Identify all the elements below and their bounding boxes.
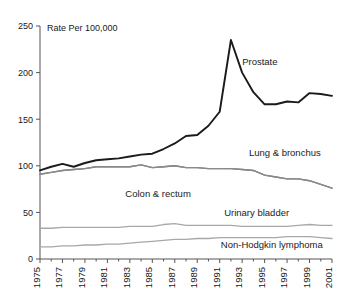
- chart-canvas: 050100150200250 197519771979198119831985…: [0, 0, 344, 307]
- x-axis-tick-label: 1979: [76, 267, 87, 288]
- series-line: [40, 165, 332, 188]
- y-axis-tick-label: 50: [23, 208, 33, 218]
- series-label: Non-Hodgkin lymphoma: [221, 239, 324, 250]
- series-line: [40, 224, 332, 229]
- x-axis-tick-label: 1997: [278, 267, 289, 288]
- x-axis-tick-label: 1991: [211, 267, 222, 288]
- x-axis-tick-label: 1987: [166, 267, 177, 288]
- y-axis-tick-label: 100: [18, 161, 33, 171]
- series-label: Lung & bronchus: [249, 147, 321, 158]
- y-axis-tick-labels: 050100150200250: [18, 21, 33, 264]
- series-label: Urinary bladder: [224, 207, 289, 218]
- x-axis-tick-label: 1989: [188, 267, 199, 288]
- series-label: Prostate: [242, 56, 277, 67]
- y-axis-tick-label: 200: [18, 68, 33, 78]
- incidence-rate-line-chart: 050100150200250 197519771979198119831985…: [0, 0, 344, 307]
- y-axis-tick-label: 0: [28, 254, 33, 264]
- x-axis-tick-label: 1995: [256, 267, 267, 288]
- x-axis-tick-label: 1981: [98, 267, 109, 288]
- x-axis-tick-label: 2001: [323, 267, 334, 288]
- x-axis-tick-labels: 1975197719791981198319851987198919911993…: [31, 267, 334, 288]
- x-axis-tick-label: 1985: [143, 267, 154, 288]
- x-axis-tick-label: 1999: [301, 267, 312, 288]
- x-axis-tick-label: 1983: [121, 267, 132, 288]
- x-axis-tick-label: 1993: [233, 267, 244, 288]
- y-axis-tick-label: 250: [18, 21, 33, 31]
- series-label: Colon & rectum: [125, 188, 191, 199]
- x-axis-tick-label: 1975: [31, 267, 42, 288]
- x-axis-tick-label: 1977: [53, 267, 64, 288]
- rate-axis-note: Rate Per 100,000: [47, 23, 118, 33]
- y-axis-tick-label: 150: [18, 115, 33, 125]
